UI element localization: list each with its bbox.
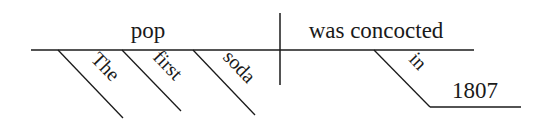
sentence-diagram: pop was concocted The first soda in 1807	[0, 0, 549, 125]
modifier-word-soda: soda	[219, 45, 260, 87]
modifier-word-the: The	[87, 47, 125, 85]
predicate-word: was concocted	[309, 18, 444, 43]
subject-word: pop	[131, 18, 166, 43]
object-word-1807: 1807	[452, 78, 498, 103]
modifier-word-first: first	[149, 45, 188, 84]
preposition-word-in: in	[405, 47, 432, 73]
